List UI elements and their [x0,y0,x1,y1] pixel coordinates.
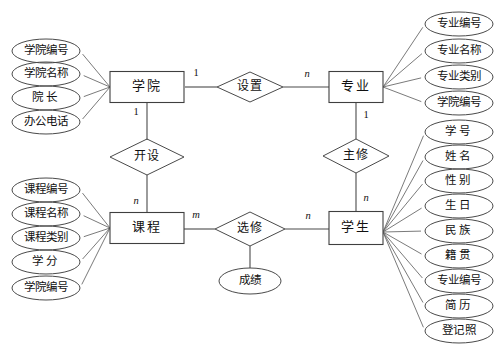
attribute-link-birthday [383,208,422,232]
attribute-office_phone: 办公电话 [12,110,80,134]
entity-course: 课程 [110,213,184,244]
attribute-student_major: 专业编号 [425,269,493,293]
attribute-label-student_name: 姓名 [445,149,474,162]
attribute-course_college: 学院编号 [12,276,80,300]
attribute-label-office_phone: 办公电话 [24,114,70,127]
attribute-label-course_no: 课程编号 [24,182,69,195]
cardinality-offer-course: n [133,195,138,206]
attribute-label-major_name: 专业名称 [437,43,483,56]
attribute-student_no: 学号 [425,120,493,144]
attribute-major_name: 专业名称 [425,39,493,63]
cardinality-college-setup: 1 [193,67,198,78]
entity-student: 学生 [329,212,383,245]
cardinality-elective-student: n [305,210,310,221]
cardinality-majorin-student: n [363,192,368,203]
relationship-attribute-grade: 成绩 [219,268,281,294]
attribute-link-course_no [83,193,111,228]
attribute-label-birthday: 生日 [445,198,474,211]
attribute-native_place: 籍贯 [425,244,493,268]
relationship-attribute-label-grade: 成绩 [239,274,262,286]
attribute-link-student_no [383,136,424,232]
attribute-gender: 性别 [425,169,493,193]
entity-label-student: 学生 [341,219,372,234]
entity-label-course: 课程 [132,219,163,234]
attribute-major_no: 专业编号 [425,12,493,36]
attribute-college_name: 学院名称 [12,62,80,86]
attribute-label-major_no: 专业编号 [437,16,482,29]
relationship-label-offer: 开设 [134,149,161,163]
attribute-link-course_college [82,228,110,284]
attribute-label-ethnicity: 民族 [445,223,474,236]
entity-major: 专业 [329,72,383,103]
attribute-label-gender: 性别 [445,173,474,186]
relationship-label-setup: 设置 [237,79,264,93]
relationship-offer: 开设 [110,139,184,175]
entity-label-college: 学院 [132,78,163,93]
attribute-course_name: 课程名称 [12,202,80,226]
attribute-major_type: 专业类别 [425,65,493,89]
cardinality-college-offer: 1 [133,106,138,117]
attribute-label-major_college: 学院编号 [437,95,482,108]
relationship-label-major_in: 主修 [343,147,370,162]
attribute-label-college_no: 学院编号 [24,43,69,56]
attribute-label-major_type: 专业类别 [437,69,482,82]
attribute-course_type: 课程类别 [12,226,80,250]
cardinality-major-majorin: 1 [363,109,368,120]
attribute-link-resume [383,232,423,303]
attribute-course_no: 课程编号 [12,178,80,202]
attribute-link-college_name [84,76,110,87]
er-diagram-canvas: 学院编号学院名称院长办公电话课程编号课程名称课程类别学分学院编号专业编号专业名称… [0,0,497,355]
relationship-elective: 选修 [215,212,285,246]
cardinality-course-elective: m [192,209,200,220]
attribute-label-student_major: 专业编号 [437,273,482,286]
attribute-college_no: 学院编号 [12,39,80,63]
attribute-nodes-layer: 学院编号学院名称院长办公电话课程编号课程名称课程类别学分学院编号专业编号专业名称… [12,12,493,343]
cardinality-setup-major: n [304,68,309,79]
attribute-label-native_place: 籍贯 [445,248,474,261]
attribute-ethnicity: 民族 [425,219,493,243]
attribute-label-photo: 登记照 [442,323,476,336]
attribute-resume: 简历 [425,294,493,318]
attribute-label-course_name: 课程名称 [24,206,70,219]
attribute-link-major_college [383,87,421,102]
attribute-photo: 登记照 [425,319,493,343]
attribute-label-college_name: 学院名称 [24,66,70,79]
relationship-label-elective: 选修 [237,220,264,235]
attribute-label-resume: 简历 [445,298,474,311]
attribute-label-course_college: 学院编号 [24,280,69,293]
attribute-link-photo [383,232,423,327]
attribute-link-major_no [383,27,423,87]
relationship-major_in: 主修 [323,139,389,173]
attribute-birthday: 生日 [425,194,493,218]
attribute-student_name: 姓名 [425,145,493,169]
relationship-setup: 设置 [217,72,283,102]
attribute-link-gender [383,184,423,232]
attribute-link-course_name [84,216,110,228]
attribute-label-course_type: 课程类别 [24,230,69,243]
entity-college: 学院 [110,72,184,103]
attribute-label-dean: 院长 [32,90,61,103]
attribute-label-student_no: 学号 [445,124,474,137]
attribute-label-credits: 学分 [32,254,61,267]
attribute-dean: 院长 [12,86,80,110]
attribute-credits: 学分 [12,250,80,274]
entity-label-major: 专业 [341,78,372,93]
attribute-link-college_no [83,54,110,87]
er-diagram-svg: 学院编号学院名称院长办公电话课程编号课程名称课程类别学分学院编号专业编号专业名称… [0,0,497,355]
attribute-major_college: 学院编号 [425,91,493,115]
attribute-link-student_name [383,161,423,233]
attribute-link-ethnicity [383,231,421,232]
attribute-link-student_major [383,232,422,278]
